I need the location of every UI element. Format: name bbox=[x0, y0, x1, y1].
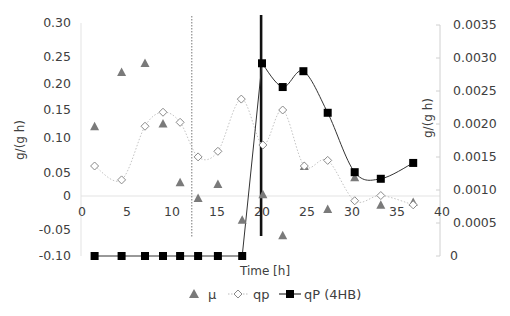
mu-point bbox=[141, 58, 150, 67]
series bbox=[90, 58, 418, 260]
chart-canvas: 00.00050.00100.00150.00200.00250.00300.0… bbox=[0, 0, 510, 316]
qp-point bbox=[176, 118, 184, 126]
x-tick-label: 15 bbox=[209, 204, 225, 219]
diamond-icon bbox=[234, 290, 242, 298]
mu-point bbox=[176, 178, 185, 187]
y-right-tick-label: 0.0025 bbox=[453, 83, 497, 98]
y-left-tick-label: 0.30 bbox=[43, 15, 71, 30]
qP-point bbox=[351, 168, 359, 176]
legend-item-qp: qp bbox=[228, 287, 270, 302]
x-tick-label: 30 bbox=[344, 204, 360, 219]
y-right-tick-label: 0 bbox=[450, 248, 458, 263]
x-tick-label: 0 bbox=[78, 204, 86, 219]
qP-point bbox=[194, 252, 202, 260]
qp-point bbox=[409, 201, 417, 209]
legend-item-mu: μ bbox=[189, 287, 216, 302]
qP-point bbox=[377, 175, 385, 183]
legend-label: qp bbox=[253, 287, 270, 302]
y-right-tick-label: 0.0005 bbox=[453, 215, 497, 230]
x-tick-label: 10 bbox=[164, 204, 180, 219]
qP-point bbox=[159, 252, 167, 260]
qP-point bbox=[299, 67, 307, 75]
x-tick-label: 5 bbox=[123, 204, 131, 219]
qP-point bbox=[214, 252, 222, 260]
mu-point bbox=[238, 215, 247, 224]
mu-point bbox=[194, 194, 203, 203]
vertical-markers bbox=[192, 15, 261, 238]
qP-point bbox=[118, 252, 126, 260]
mu-point bbox=[159, 119, 168, 128]
mu-point bbox=[117, 68, 126, 77]
qp-point bbox=[141, 122, 149, 130]
triangle-icon bbox=[189, 289, 199, 298]
legend-item-qP-4HB: qP (4HB) bbox=[279, 287, 361, 302]
y-right-tick-label: 0.0020 bbox=[453, 116, 497, 131]
qP-point bbox=[238, 252, 246, 260]
y-axis-left-title: g/(g h) bbox=[13, 120, 27, 160]
y-right-tick-label: 0.0035 bbox=[453, 17, 497, 32]
qP-point bbox=[279, 83, 287, 91]
x-tick-label: 35 bbox=[389, 204, 405, 219]
y-left-tick-label: 0.10 bbox=[43, 130, 71, 145]
y-left-tick-label: 0.15 bbox=[43, 102, 71, 117]
x-tick-label: 40 bbox=[434, 204, 450, 219]
y-right-tick-label: 0.0015 bbox=[453, 149, 497, 164]
mu-point bbox=[278, 231, 287, 240]
chart: 00.00050.00100.00150.00200.00250.00300.0… bbox=[0, 0, 510, 316]
qP-point bbox=[258, 59, 266, 67]
legend-label: μ bbox=[208, 287, 216, 302]
mu-point bbox=[323, 204, 332, 213]
qp-point bbox=[324, 156, 332, 164]
x-tick-label: 25 bbox=[299, 204, 315, 219]
qP-point bbox=[91, 252, 99, 260]
square-icon bbox=[286, 290, 294, 298]
y-left-tick-label: 0.25 bbox=[43, 49, 71, 64]
qp-point bbox=[377, 192, 385, 200]
y-left-tick-label: 0 bbox=[63, 188, 71, 203]
mu-point bbox=[90, 122, 99, 131]
qP-point bbox=[409, 159, 417, 167]
y-left-tick-label: -0.05 bbox=[39, 222, 71, 237]
y-left-tick-label: 0.20 bbox=[43, 76, 71, 91]
y-right-tick-label: 0.0030 bbox=[453, 50, 497, 65]
legend-label: qP (4HB) bbox=[304, 287, 361, 302]
y-right-tick-label: 0.0010 bbox=[453, 182, 497, 197]
y-left-tick-label: -0.10 bbox=[39, 248, 71, 263]
qP-line-jump bbox=[242, 63, 262, 256]
qp-line bbox=[95, 99, 414, 205]
qp-point bbox=[159, 108, 167, 116]
qP-line bbox=[262, 63, 413, 180]
mu-point bbox=[376, 200, 385, 209]
qP-point bbox=[176, 252, 184, 260]
qP-point bbox=[141, 252, 149, 260]
x-axis-title: Time [h] bbox=[239, 264, 290, 278]
legend: μ qp qP (4HB) bbox=[189, 287, 361, 302]
mu-point bbox=[213, 180, 222, 189]
qp-point bbox=[194, 153, 202, 161]
y-left-tick-label: 0.05 bbox=[43, 165, 71, 180]
qP-point bbox=[324, 109, 332, 117]
mu-point bbox=[258, 190, 267, 199]
y-axis-right-title: g/(g h) bbox=[421, 98, 435, 138]
qp-point bbox=[214, 147, 222, 155]
